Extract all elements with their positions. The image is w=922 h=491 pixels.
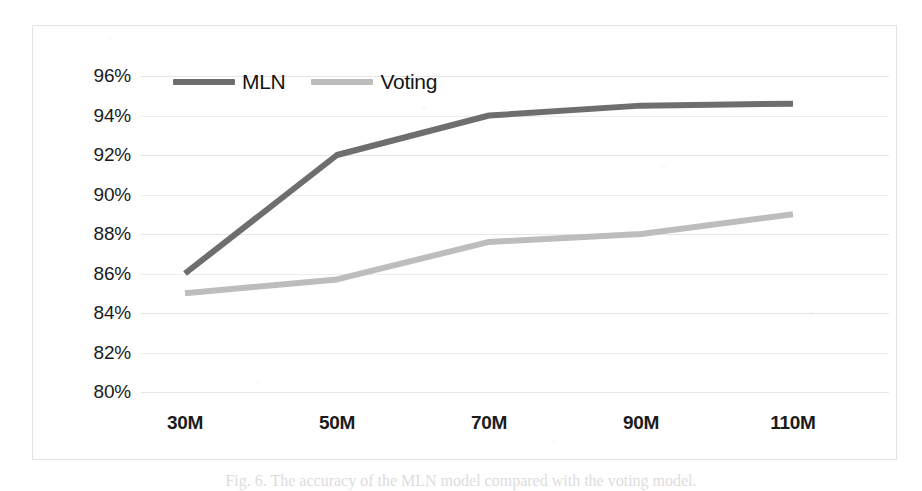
y-tick-84: 84% [94,302,131,324]
series-line-voting [185,214,793,293]
legend-entry-voting[interactable]: Voting [311,70,437,94]
series-lines [141,76,889,392]
plot-area: 96%94%92%90%88%86%84%82%80% 30M50M70M90M… [141,76,889,392]
x-tick-90M: 90M [623,412,659,434]
legend-label-voting: Voting [380,70,437,94]
y-tick-88: 88% [94,223,131,245]
gridline-80 [141,392,889,393]
x-tick-50M: 50M [319,412,355,434]
figure-caption: Fig. 6. The accuracy of the MLN model co… [0,472,922,490]
x-tick-110M: 110M [770,412,815,434]
y-tick-94: 94% [94,105,131,127]
y-tick-92: 92% [94,144,131,166]
x-tick-70M: 70M [471,412,507,434]
legend-swatch-voting [311,79,373,85]
legend-entry-mln[interactable]: MLN [173,70,285,94]
legend-swatch-mln [173,79,235,85]
chart-frame: MLN Voting 96%94%92%90%88%86%84%82%80% 3… [32,25,897,460]
x-tick-30M: 30M [167,412,203,434]
y-tick-96: 96% [94,65,131,87]
y-tick-82: 82% [94,342,131,364]
legend-label-mln: MLN [242,70,285,94]
series-line-mln [185,104,793,274]
chart-legend: MLN Voting [173,70,437,94]
y-tick-90: 90% [94,184,131,206]
y-tick-86: 86% [94,263,131,285]
y-tick-80: 80% [94,381,131,403]
